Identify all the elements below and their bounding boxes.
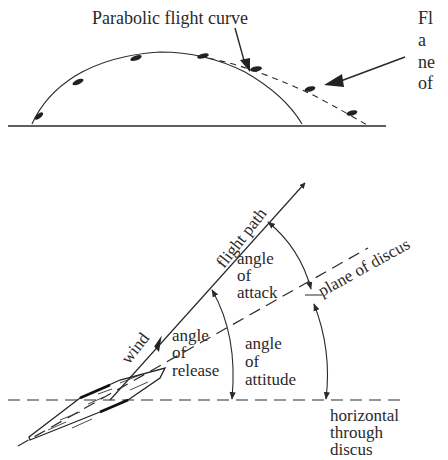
svg-text:of: of (172, 343, 187, 362)
svg-text:of: of (245, 352, 260, 371)
actual-flight-curve (198, 56, 367, 125)
angle-of-attack-arc (268, 222, 311, 289)
svg-text:attack: attack (237, 283, 278, 302)
discus-icon (29, 368, 165, 440)
discus-flight-diagram: Parabolic flight curve Fl a ne of (0, 0, 448, 460)
svg-text:release: release (172, 361, 219, 380)
parabolic-curve (32, 52, 302, 124)
discus-angles-panel: flight path plane of discus wind angle o… (8, 183, 413, 459)
discus-position-icon (197, 52, 210, 60)
svg-text:discus: discus (330, 440, 373, 459)
discus-position-icon (72, 77, 85, 86)
angle-of-release-label: angle of release (172, 326, 219, 380)
svg-text:attitude: attitude (245, 370, 296, 389)
actual-curve-pointer-arrow (338, 57, 405, 82)
discus-positions (34, 52, 358, 121)
parabolic-flight-panel: Parabolic flight curve Fl a ne of (8, 8, 435, 126)
parabolic-flight-title: Parabolic flight curve (92, 8, 248, 28)
discus-position-icon (250, 65, 263, 72)
plane-of-discus-line (18, 248, 368, 446)
cut-off-line-1: Fl (418, 8, 433, 28)
plane-of-discus-label: plane of discus (315, 234, 413, 300)
cut-off-line-2: a (418, 30, 426, 50)
angle-of-release-arc (212, 290, 233, 399)
actual-curve-pointer-arrowhead-icon (324, 74, 344, 87)
discus-position-icon (34, 111, 44, 121)
svg-text:angle: angle (245, 334, 282, 353)
wind-label: wind (117, 329, 153, 368)
cut-off-caption: Fl a ne of (418, 8, 435, 93)
angle-of-attitude-arc (314, 304, 328, 399)
angle-of-attack-label: angle of attack (237, 249, 278, 302)
cut-off-line-4: of (418, 73, 433, 93)
parabola-pointer-arrow (235, 28, 245, 64)
angle-of-attitude-label: angle of attitude (245, 334, 296, 389)
horizontal-through-discus-label: horizontal through discus (330, 406, 399, 459)
cut-off-line-3: ne (418, 52, 435, 72)
